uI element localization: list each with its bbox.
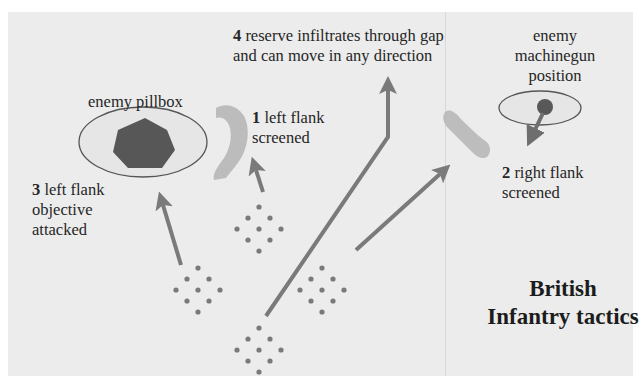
machinegun-text-line3: position (528, 66, 581, 85)
label-enemy-pillbox: enemy pillbox (88, 92, 183, 112)
machinegun-text-line2: machinegun (515, 46, 596, 65)
title-line1: British (529, 276, 597, 301)
diagram-title: British Infantry tactics (468, 275, 643, 331)
step-number-2: 2 (502, 163, 510, 182)
enemy-pillbox (79, 107, 207, 177)
label-step-3: 3 left flank objective attacked (32, 180, 104, 240)
formation-right-flank-screen (297, 265, 346, 314)
formation-left-flank-attack (173, 265, 222, 314)
label-step-2: 2 right flank screened (502, 163, 584, 203)
step-number-3: 3 (32, 180, 40, 199)
enemy-machinegun (499, 91, 581, 132)
formation-left-flank-screen (234, 204, 283, 253)
step3-text-line2: objective (32, 200, 92, 219)
step3-text-line1: left flank (40, 180, 104, 199)
step4-text-line1: reserve infiltrates through gap (241, 26, 444, 45)
label-enemy-machinegun: enemy machinegun position (500, 26, 610, 86)
step-number-1: 1 (252, 108, 260, 127)
smoke-screen-right-icon (443, 111, 490, 159)
arrow-left-flank-attack-icon (163, 205, 181, 265)
formation-reserve (234, 325, 283, 374)
label-step-4: 4 reserve infiltrates through gap and ca… (233, 26, 444, 66)
step1-text-line2: screened (252, 128, 310, 147)
smoke-screen-left-icon (214, 105, 248, 180)
step-number-4: 4 (233, 26, 241, 45)
step4-text-line2: and can move in any direction (233, 46, 432, 65)
arrow-left-flank-screen-icon (256, 170, 263, 192)
title-line2: Infantry tactics (487, 304, 638, 329)
step3-text-line3: attacked (32, 220, 87, 239)
arrow-right-flank-screen-icon (356, 174, 440, 250)
label-step-1: 1 left flank screened (252, 108, 324, 148)
step2-text-line1: right flank (510, 163, 583, 182)
machinegun-position-icon (537, 99, 553, 115)
step2-text-line2: screened (502, 183, 560, 202)
step1-text-line1: left flank (260, 108, 324, 127)
machinegun-text-line1: enemy (533, 26, 577, 45)
